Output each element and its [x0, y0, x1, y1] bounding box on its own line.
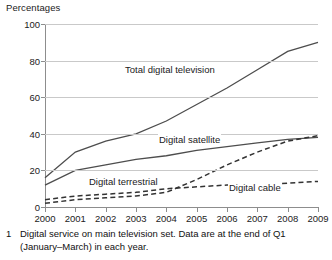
x-axis-tick-label: 2008: [277, 213, 298, 224]
x-axis-tick-mark: [75, 207, 76, 212]
x-axis-tick-label: 2006: [216, 213, 237, 224]
y-axis-tick-mark: [41, 134, 45, 135]
gridline: [45, 97, 318, 98]
x-axis-tick-mark: [318, 207, 319, 212]
y-axis-tick-label: 20: [29, 165, 40, 176]
x-axis-tick-label: 2004: [156, 213, 177, 224]
x-axis-tick-mark: [45, 207, 46, 212]
y-axis-tick-mark: [41, 97, 45, 98]
series-label-digital-terrestrial: Digital terrestrial: [88, 176, 159, 187]
y-axis-title: Percentages: [6, 2, 60, 13]
gridline: [45, 170, 318, 171]
y-axis-ticks: 020406080100: [0, 24, 40, 207]
x-axis-tick-label: 2005: [186, 213, 207, 224]
x-axis-tick-label: 2007: [247, 213, 268, 224]
y-axis-tick-mark: [41, 207, 45, 208]
series-label-digital-satellite: Digital satellite: [158, 134, 221, 145]
x-axis-tick-mark: [197, 207, 198, 212]
y-axis-tick-label: 60: [29, 92, 40, 103]
gridline: [45, 207, 318, 208]
y-axis-tick-label: 0: [35, 202, 40, 213]
gridline: [45, 61, 318, 62]
chart-figure: Percentages 020406080100 200020012002200…: [0, 0, 332, 260]
y-axis-tick-label: 100: [24, 19, 40, 30]
footnote-text: Digital service on main television set. …: [20, 228, 326, 253]
x-axis-tick-mark: [288, 207, 289, 212]
series-lines: [45, 24, 318, 207]
x-axis-tick-mark: [166, 207, 167, 212]
y-axis-tick-mark: [41, 24, 45, 25]
x-axis-tick-label: 2002: [95, 213, 116, 224]
x-axis-tick-label: 2000: [34, 213, 55, 224]
x-axis-tick-label: 2003: [125, 213, 146, 224]
x-axis-tick-mark: [136, 207, 137, 212]
line-total-digital-television: [45, 42, 318, 177]
plot-area: [45, 24, 318, 207]
x-axis-tick-mark: [257, 207, 258, 212]
y-axis-tick-label: 80: [29, 55, 40, 66]
x-axis-tick-label: 2009: [307, 213, 328, 224]
x-axis-tick-label: 2001: [65, 213, 86, 224]
footnote-number: 1: [6, 228, 11, 241]
gridline: [45, 24, 318, 25]
y-axis-tick-label: 40: [29, 128, 40, 139]
y-axis-tick-mark: [41, 170, 45, 171]
x-axis-tick-mark: [106, 207, 107, 212]
footnote: 1 Digital service on main television set…: [6, 228, 326, 253]
x-axis-tick-mark: [227, 207, 228, 212]
series-label-digital-cable: Digital cable: [228, 182, 282, 193]
series-label-total-digital-television: Total digital television: [124, 64, 216, 75]
y-axis-tick-mark: [41, 61, 45, 62]
